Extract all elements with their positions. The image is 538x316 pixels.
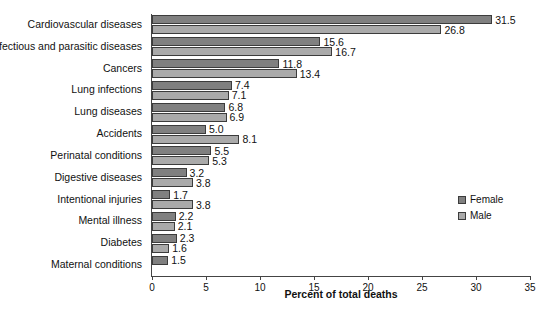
bar-male [152,47,332,56]
legend-item-male: Male [458,209,503,222]
category-label: Lung infections [71,84,142,95]
bar-female [152,212,176,221]
legend-label-female: Female [470,194,503,205]
category-label: Digestive diseases [54,172,142,183]
x-tick [260,276,261,280]
x-tick [476,276,477,280]
bar-value-label: 5.0 [209,124,224,134]
category-label: Mental illness [78,215,142,226]
bar-male [152,156,209,165]
bar-value-label: 26.8 [444,25,464,35]
legend-swatch-male-icon [458,212,466,220]
bar-female [152,103,225,112]
legend-swatch-female-icon [458,196,466,204]
legend: Female Male [458,193,503,225]
category-label: Lung diseases [74,106,142,117]
bar-value-label: 7.1 [232,90,247,100]
bar-female [152,146,211,155]
bar-male [152,113,227,122]
x-tick [530,276,531,280]
category-label: Maternal conditions [51,259,142,270]
category-label: Perinatal conditions [50,150,142,161]
bar-value-label: 3.8 [196,178,211,188]
bar-value-label: 8.1 [242,134,257,144]
bar-value-label: 16.7 [335,47,355,57]
bar-male [152,178,193,187]
bar-male [152,222,175,231]
bar-female [152,125,206,134]
bar-male [152,200,193,209]
category-label: Infectious and parasitic diseases [0,41,142,52]
bar-value-label: 1.7 [173,190,188,200]
category-label: Diabetes [101,237,142,248]
bar-female [152,168,187,177]
bar-value-label: 31.5 [495,15,515,25]
bar-value-label: 1.5 [171,255,186,265]
x-tick [368,276,369,280]
x-tick [314,276,315,280]
x-tick [422,276,423,280]
bar-value-label: 6.9 [230,112,245,122]
bar-value-label: 13.4 [300,69,320,79]
category-label: Intentional injuries [57,194,142,205]
bar-male [152,25,441,34]
bar-female [152,190,170,199]
plot-area: 05101520253035 31.526.815.616.711.813.47… [152,14,530,276]
category-label: Accidents [96,128,142,139]
category-label: Cancers [103,63,142,74]
bar-female [152,59,279,68]
bar-female [152,256,168,265]
bar-value-label: 5.3 [212,156,227,166]
category-label: Cardiovascular diseases [28,19,142,30]
bar-female [152,37,320,46]
legend-item-female: Female [458,193,503,206]
x-tick [206,276,207,280]
bar-male [152,135,239,144]
bar-female [152,15,492,24]
bar-male [152,69,297,78]
x-axis-line [151,276,531,277]
bar-value-label: 3.8 [196,200,211,210]
bar-chart: Cardiovascular diseasesInfectious and pa… [0,0,538,316]
bar-male [152,244,169,253]
category-axis-labels: Cardiovascular diseasesInfectious and pa… [0,14,147,276]
legend-label-male: Male [470,210,492,221]
bar-value-label: 1.6 [172,243,187,253]
x-tick [152,276,153,280]
bar-male [152,91,229,100]
x-axis-title: Percent of total deaths [152,288,530,300]
bar-value-label: 2.1 [178,221,193,231]
bar-female [152,81,232,90]
